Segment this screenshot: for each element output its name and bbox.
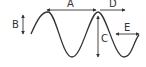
label-e: E <box>124 22 130 33</box>
label-c: C <box>101 33 108 44</box>
label-b: B <box>12 19 19 30</box>
label-a: A <box>67 0 74 9</box>
label-d: D <box>109 0 117 9</box>
wave-curve <box>31 12 139 57</box>
wave-diagram: A B C D E <box>0 0 146 67</box>
